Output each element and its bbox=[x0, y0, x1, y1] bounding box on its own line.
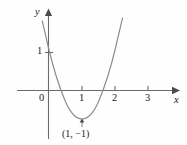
x-tick-label-3: 3 bbox=[145, 93, 150, 104]
y-tick-label-1: 1 bbox=[37, 46, 42, 57]
x-tick-label-2: 2 bbox=[112, 93, 117, 104]
plot-svg bbox=[0, 0, 187, 145]
x-tick-label-1: 1 bbox=[79, 93, 84, 104]
parabola-figure: y x 1 0 1 2 3 (1, −1) bbox=[0, 0, 187, 145]
vertex-annotation-label: (1, −1) bbox=[62, 129, 89, 139]
x-axis-label: x bbox=[174, 95, 179, 106]
y-axis-arrow-icon bbox=[45, 9, 52, 17]
y-axis-label: y bbox=[35, 7, 40, 18]
x-tick-label-0: 0 bbox=[39, 93, 44, 104]
parabola-curve bbox=[42, 18, 122, 119]
